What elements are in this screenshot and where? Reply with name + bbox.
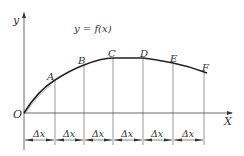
- point-label-b: B: [77, 55, 85, 66]
- function-label: y = f(x): [73, 23, 112, 34]
- function-diagram: y O X y = f(x) A B C D E F Δx Δx Δx Δx Δ…: [0, 0, 244, 156]
- point-label-a: A: [46, 71, 54, 82]
- point-label-f: F: [201, 62, 210, 73]
- function-curve: [24, 58, 207, 113]
- point-label-d: D: [139, 48, 148, 59]
- interval-label-3: Δx: [91, 128, 105, 139]
- interval-labels: Δx Δx Δx Δx Δx Δx: [32, 128, 195, 139]
- x-axis-label: X: [223, 115, 233, 128]
- interval-label-2: Δx: [62, 128, 76, 139]
- interval-label-5: Δx: [150, 128, 164, 139]
- origin-label: O: [13, 108, 22, 121]
- interval-label-1: Δx: [32, 128, 46, 139]
- y-axis-label: y: [12, 14, 20, 27]
- point-label-c: C: [108, 48, 116, 59]
- point-label-e: E: [169, 53, 178, 64]
- interval-label-4: Δx: [120, 128, 134, 139]
- interval-label-6: Δx: [181, 128, 195, 139]
- diagram-svg: y O X y = f(x) A B C D E F Δx Δx Δx Δx Δ…: [0, 0, 244, 156]
